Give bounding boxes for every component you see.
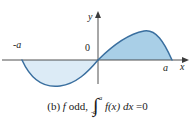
x-axis-label: x: [180, 62, 184, 72]
y-axis-arrow: [95, 11, 101, 18]
origin-label: 0: [85, 43, 90, 53]
integral-operator: ∫ a -a: [91, 98, 104, 113]
x-axis-left-tick-label: -a: [13, 40, 21, 50]
positive-area-fill: [98, 31, 172, 60]
function-plot: [0, 0, 195, 100]
integral-lower-limit: -a: [91, 108, 96, 115]
caption-integrand: f(x) dx: [105, 100, 133, 112]
integral-upper-limit: a: [99, 94, 102, 101]
caption-parity-word: odd,: [69, 100, 88, 112]
caption-result: 0: [142, 100, 148, 112]
caption-part-label: (b): [47, 100, 60, 112]
caption-function-symbol: f: [63, 100, 66, 112]
y-axis-label: y: [88, 12, 92, 22]
odd-function-integral-figure: -a y 0 a x (b) f odd, ∫ a -a f(x) dx =0: [0, 0, 195, 125]
figure-caption: (b) f odd, ∫ a -a f(x) dx =0: [0, 98, 195, 113]
x-axis-right-tick-label: a: [163, 63, 168, 73]
